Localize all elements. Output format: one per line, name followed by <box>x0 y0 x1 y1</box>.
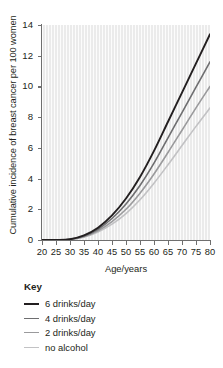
plot-area <box>42 25 210 240</box>
y-axis-tick <box>38 179 42 180</box>
x-axis-tick <box>182 241 183 245</box>
x-axis-tick <box>56 241 57 245</box>
x-axis-tick <box>70 241 71 245</box>
legend-item: 4 drinks/day <box>24 311 174 326</box>
y-axis-tick <box>38 25 42 26</box>
legend: Key 6 drinks/day4 drinks/day2 drinks/day… <box>24 281 174 355</box>
legend-line-swatch <box>24 303 39 305</box>
legend-item-label: 2 drinks/day <box>45 327 96 338</box>
legend-item-label: 4 drinks/day <box>45 313 96 324</box>
y-axis-tick <box>38 86 42 87</box>
x-axis-tick <box>112 241 113 245</box>
x-axis-tick-label: 80 <box>202 247 218 257</box>
y-axis-tick-label: 14 <box>15 19 33 30</box>
x-axis-tick <box>42 241 43 245</box>
legend-item: 2 drinks/day <box>24 326 174 341</box>
breast-cancer-incidence-chart: Cumulative incidence of breast cancer pe… <box>0 0 223 368</box>
legend-line-swatch <box>24 318 39 319</box>
y-axis-tick-label: 8 <box>15 111 33 122</box>
legend-item-label: no alcohol <box>45 342 88 353</box>
legend-rows: 6 drinks/day4 drinks/day2 drinks/dayno a… <box>24 297 174 355</box>
y-axis-tick <box>38 56 42 57</box>
y-axis-tick <box>38 148 42 149</box>
x-axis-tick <box>210 241 211 245</box>
legend-line-swatch <box>24 347 39 348</box>
y-axis-tick <box>38 117 42 118</box>
y-axis-tick <box>38 209 42 210</box>
y-axis-tick-label: 6 <box>15 142 33 153</box>
x-axis-tick <box>140 241 141 245</box>
legend-title: Key <box>24 281 174 292</box>
x-axis-tick <box>196 241 197 245</box>
legend-item: no alcohol <box>24 340 174 355</box>
x-axis-title: Age/years <box>42 263 210 274</box>
x-axis-tick <box>84 241 85 245</box>
legend-item-label: 6 drinks/day <box>45 298 96 309</box>
y-axis-tick-label: 4 <box>15 173 33 184</box>
legend-line-swatch <box>24 332 39 333</box>
legend-item: 6 drinks/day <box>24 297 174 312</box>
series-curves <box>42 25 210 240</box>
x-axis-tick <box>154 241 155 245</box>
y-axis-tick-label: 10 <box>15 80 33 91</box>
y-axis-tick-label: 0 <box>15 234 33 245</box>
series-line <box>42 108 210 240</box>
x-axis-tick <box>98 241 99 245</box>
series-line <box>42 86 210 240</box>
y-axis-tick-label: 2 <box>15 203 33 214</box>
x-axis-tick <box>168 241 169 245</box>
x-axis-tick <box>126 241 127 245</box>
y-axis-tick-label: 12 <box>15 50 33 61</box>
